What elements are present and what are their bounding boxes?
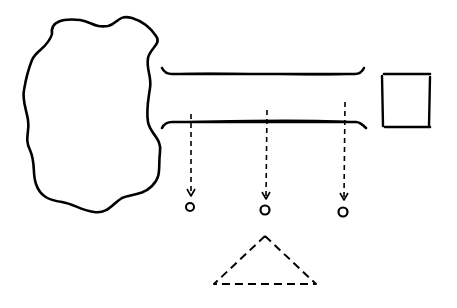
dashed-arrow-1 [187, 114, 195, 196]
dashed-arrow-3 [340, 102, 348, 200]
circle-1 [186, 203, 194, 211]
circle-3 [339, 208, 348, 217]
top-bar-shape [162, 68, 364, 75]
circle-2 [261, 206, 270, 215]
diagram-canvas [0, 0, 457, 308]
blob-shape [23, 17, 160, 212]
dashed-arrow-2 [262, 110, 270, 199]
bottom-bar-shape [162, 120, 366, 128]
square-shape [382, 74, 430, 127]
dashed-triangle [214, 236, 316, 284]
